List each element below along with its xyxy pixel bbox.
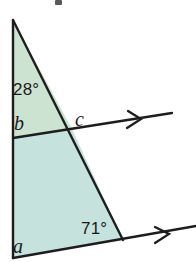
angle-label-28-degrees: 28° <box>13 81 39 98</box>
scan-artifact-speck <box>55 0 62 5</box>
angle-label-71-degrees: 71° <box>81 220 107 237</box>
angle-label-a: a <box>13 236 23 256</box>
lower-quadrilateral-fill <box>13 129 123 258</box>
angle-label-c: c <box>75 109 84 129</box>
lower-parallel-arrowhead-icon <box>155 227 169 243</box>
geometry-figure: 28° b c 71° a <box>0 0 196 262</box>
angle-label-b: b <box>14 113 24 133</box>
